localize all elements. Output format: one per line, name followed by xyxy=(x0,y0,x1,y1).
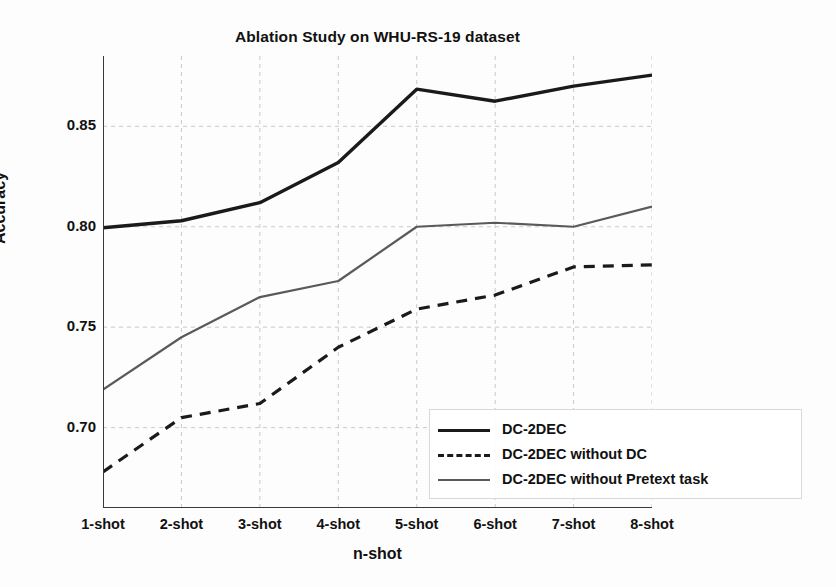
y-axis-tick-label: 0.80 xyxy=(38,217,96,234)
x-axis-tick-label: 8-shot xyxy=(612,516,692,532)
y-axis-tick-label: 0.70 xyxy=(38,418,96,435)
x-axis-tick-label: 2-shot xyxy=(141,516,221,532)
legend-item-dc2dec[interactable]: DC-2DEC xyxy=(438,416,793,441)
legend-label: DC-2DEC without Pretext task xyxy=(502,471,708,487)
x-axis-tick-label: 5-shot xyxy=(377,516,457,532)
legend-swatch-solid-thick-icon xyxy=(438,422,490,436)
x-axis-tick-label: 4-shot xyxy=(298,516,378,532)
chart-figure: Ablation Study on WHU-RS-19 dataset Accu… xyxy=(0,0,836,587)
chart-title: Ablation Study on WHU-RS-19 dataset xyxy=(103,28,652,46)
x-axis-tick-label: 1-shot xyxy=(63,516,143,532)
x-axis-tick-label: 6-shot xyxy=(455,516,535,532)
horizontal-gridlines xyxy=(103,126,652,427)
x-axis-label: n-shot xyxy=(103,545,652,563)
legend-item-without-dc[interactable]: DC-2DEC without DC xyxy=(438,441,793,466)
legend-swatch-solid-thin-icon xyxy=(438,472,490,486)
x-axis-tick-label: 7-shot xyxy=(534,516,614,532)
legend-label: DC-2DEC without DC xyxy=(502,446,647,462)
y-axis-tick-label: 0.85 xyxy=(38,116,96,133)
y-axis-tick-label: 0.75 xyxy=(38,317,96,334)
legend-label: DC-2DEC xyxy=(502,421,566,437)
legend-swatch-dashed-icon xyxy=(438,447,490,461)
x-axis-tick-label: 3-shot xyxy=(220,516,300,532)
chart-legend: DC-2DEC DC-2DEC without DC DC-2DEC witho… xyxy=(429,409,802,499)
legend-item-without-pretext[interactable]: DC-2DEC without Pretext task xyxy=(438,466,793,491)
y-axis-tick-labels: 0.700.750.800.85 xyxy=(0,0,96,587)
